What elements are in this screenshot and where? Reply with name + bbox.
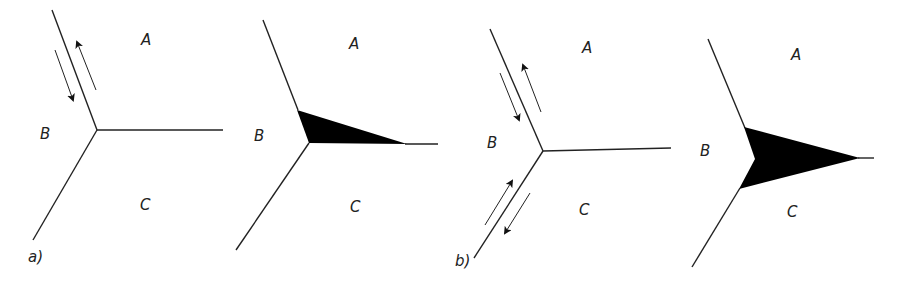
boundary-bc — [692, 188, 740, 267]
boundary-ab — [263, 20, 298, 110]
grain-label-a: A — [581, 39, 592, 57]
triple-junction-diagram: A B C a) A B C A B C b) A B C — [0, 0, 900, 282]
boundary-bc — [33, 130, 97, 240]
boundary-ab — [490, 29, 543, 151]
boundary-bc — [474, 151, 543, 258]
sliding-arrow-up-icon — [485, 181, 512, 225]
panel-a-after: A B C — [236, 20, 438, 250]
panel-caption: b) — [455, 252, 470, 270]
boundary-ab — [708, 39, 745, 128]
panel-b-before: A B C b) — [455, 29, 671, 270]
grain-label-a: A — [140, 31, 151, 49]
grain-label-b: B — [254, 127, 264, 145]
grain-label-c: C — [579, 201, 590, 219]
sliding-arrow-up-icon — [523, 65, 541, 112]
panel-caption: a) — [28, 248, 43, 266]
wedge-crack — [297, 110, 407, 144]
grain-label-c: C — [350, 198, 361, 216]
grain-label-b: B — [700, 142, 710, 160]
boundary-ac — [543, 148, 671, 151]
panel-a-before: A B C a) — [28, 10, 223, 266]
grain-label-a: A — [790, 46, 801, 64]
grain-label-a: A — [348, 35, 359, 53]
wedge-crack — [739, 127, 860, 189]
boundary-bc — [236, 143, 309, 250]
boundary-ab — [52, 10, 97, 130]
sliding-arrow-down-icon — [500, 73, 519, 120]
grain-label-b: B — [40, 125, 50, 143]
grain-label-c: C — [140, 196, 151, 214]
grain-label-c: C — [787, 203, 798, 221]
grain-label-b: B — [487, 134, 497, 152]
sliding-arrow-down-icon — [505, 193, 530, 233]
panel-b-after: A B C — [692, 39, 874, 267]
